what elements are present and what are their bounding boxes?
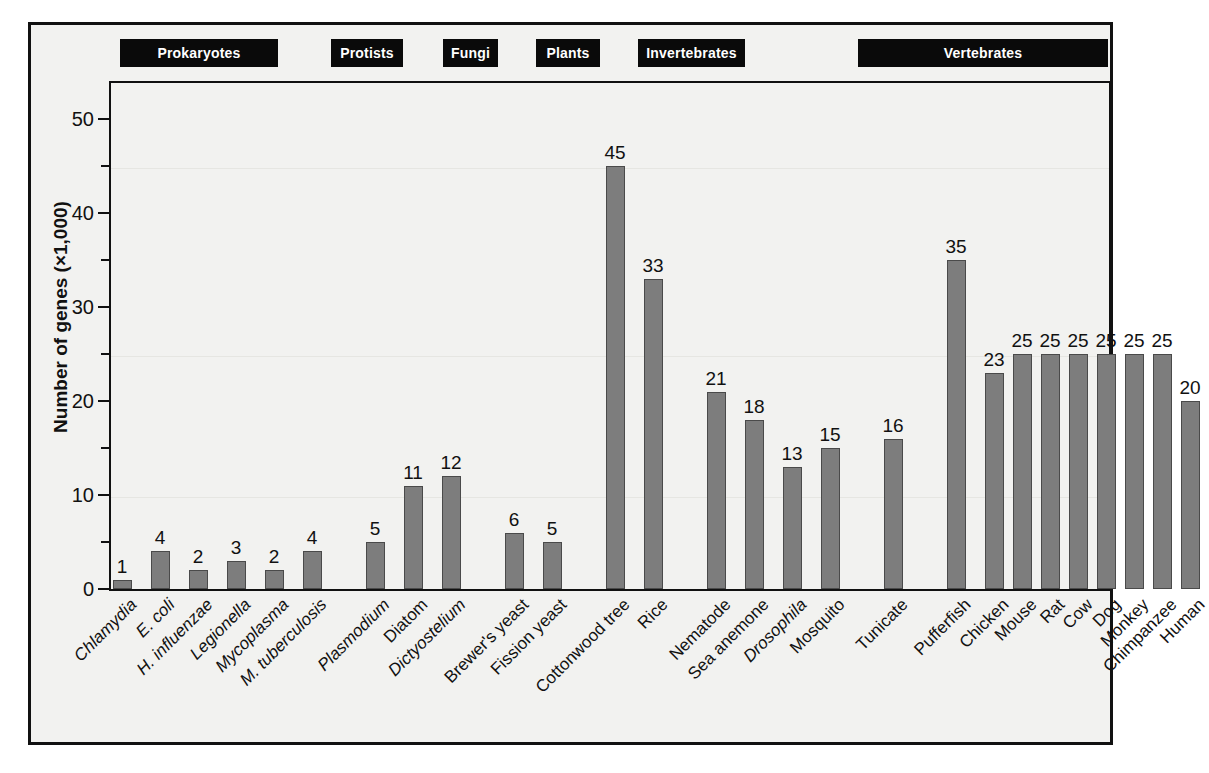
bar-rice	[644, 279, 663, 589]
group-header-plants: Plants	[536, 39, 600, 67]
bar-value-label: 2	[269, 546, 280, 568]
bar-value-label: 18	[743, 396, 764, 418]
y-tick-label: 10	[72, 484, 94, 507]
x-axis-labels: ChlamydiaE. coliH. influenzaeLegionellaM…	[109, 591, 1111, 746]
y-tick-minor	[101, 353, 109, 355]
bar-value-label: 11	[403, 462, 423, 484]
group-header-prokaryotes: Prokaryotes	[120, 39, 278, 67]
group-header-invertebrates: Invertebrates	[638, 39, 745, 67]
bar-value-label: 25	[1039, 330, 1060, 352]
bar-plasmodium	[366, 542, 385, 589]
y-tick-major	[98, 494, 109, 496]
bar-value-label: 3	[231, 537, 242, 559]
bar-value-label: 45	[604, 142, 625, 164]
y-tick-label: 40	[72, 202, 94, 225]
bar-value-label: 2	[193, 546, 204, 568]
bar-human	[1181, 401, 1200, 589]
y-tick-major	[98, 588, 109, 590]
group-header-fungi: Fungi	[443, 39, 498, 67]
bar-chimpanzee	[1153, 354, 1172, 589]
bar-value-label: 12	[440, 452, 461, 474]
bar-value-label: 4	[155, 527, 166, 549]
bar-mouse	[1013, 354, 1032, 589]
y-tick-label: 20	[72, 390, 94, 413]
figure-panel: ProkaryotesProtistsFungiPlantsInvertebra…	[28, 22, 1113, 745]
bar-value-label: 21	[705, 368, 726, 390]
y-tick-major	[98, 400, 109, 402]
bar-value-label: 5	[547, 518, 558, 540]
x-tick-label: Tunicate	[852, 595, 912, 655]
x-tick-label: Rice	[634, 595, 672, 633]
y-tick-label: 0	[83, 578, 94, 601]
bar-h-influenzae	[189, 570, 208, 589]
bar-m-tuberculosis	[303, 551, 322, 589]
y-tick-minor	[101, 447, 109, 449]
bar-value-label: 25	[1067, 330, 1088, 352]
y-tick-major	[98, 118, 109, 120]
bar-value-label: 5	[370, 518, 381, 540]
bar-chicken	[985, 373, 1004, 589]
bar-chlamydia	[113, 580, 132, 589]
x-tick-label: Chlamydia	[70, 595, 141, 666]
bar-value-label: 25	[1123, 330, 1144, 352]
group-header-protists: Protists	[331, 39, 403, 67]
y-tick-label: 30	[72, 296, 94, 319]
bar-cottonwood-tree	[606, 166, 625, 589]
bar-drosophila	[783, 467, 802, 589]
group-header-label: Fungi	[451, 45, 490, 61]
bar-value-label: 33	[642, 255, 663, 277]
bar-dictyostelium	[442, 476, 461, 589]
bar-value-label: 25	[1095, 330, 1116, 352]
bar-value-label: 35	[945, 236, 966, 258]
group-header-label: Plants	[546, 45, 589, 61]
bar-tunicate	[884, 439, 903, 589]
bar-diatom	[404, 486, 423, 589]
bar-brewer-s-yeast	[505, 533, 524, 589]
bar-dog	[1097, 354, 1116, 589]
bar-pufferfish	[947, 260, 966, 589]
bar-value-label: 25	[1011, 330, 1032, 352]
bar-mosquito	[821, 448, 840, 589]
y-tick-major	[98, 306, 109, 308]
bar-value-label: 20	[1179, 377, 1200, 399]
bar-value-label: 13	[781, 443, 802, 465]
y-tick-major	[98, 212, 109, 214]
bar-value-label: 25	[1151, 330, 1172, 352]
bar-rat	[1041, 354, 1060, 589]
y-tick-minor	[101, 259, 109, 261]
bar-e-coli	[151, 551, 170, 589]
y-axis: Number of genes (×1,000) 01020304050	[31, 81, 109, 593]
group-header-label: Protists	[340, 45, 394, 61]
bar-fission-yeast	[543, 542, 562, 589]
y-tick-minor	[101, 541, 109, 543]
bar-sea-anemone	[745, 420, 764, 589]
bar-value-label: 1	[117, 556, 128, 578]
bar-value-label: 6	[509, 509, 520, 531]
bar-nematode	[707, 392, 726, 589]
plot-area: 1423245111265453321181315163523252525252…	[109, 81, 1111, 591]
group-header-vertebrates: Vertebrates	[858, 39, 1108, 67]
bar-value-label: 15	[819, 424, 840, 446]
bar-value-label: 4	[307, 527, 318, 549]
bars-container: 1423245111265453321181315163523252525252…	[111, 83, 1109, 589]
group-header-strip: ProkaryotesProtistsFungiPlantsInvertebra…	[31, 25, 1110, 81]
bar-mycoplasma	[265, 570, 284, 589]
bar-legionella	[227, 561, 246, 589]
y-tick-minor	[101, 165, 109, 167]
bar-cow	[1069, 354, 1088, 589]
bar-value-label: 16	[882, 415, 903, 437]
bar-monkey	[1125, 354, 1144, 589]
y-tick-label: 50	[72, 108, 94, 131]
bar-value-label: 23	[983, 349, 1004, 371]
group-header-label: Invertebrates	[646, 45, 737, 61]
group-header-label: Vertebrates	[944, 45, 1022, 61]
y-axis-title: Number of genes (×1,000)	[50, 167, 72, 467]
group-header-label: Prokaryotes	[157, 45, 240, 61]
